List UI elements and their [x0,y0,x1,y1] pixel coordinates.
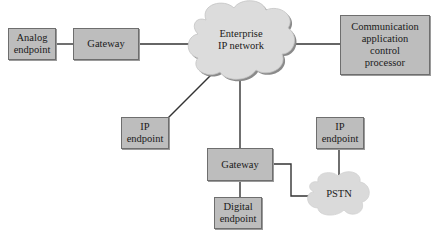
ip-endpoint-right-label-2: endpoint [322,133,359,145]
gateway-top-box: Gateway [73,28,139,60]
enterprise-network-label: Enterprise IP network [205,28,277,52]
pstn-label: PSTN [314,188,364,200]
digital-endpoint-label-2: endpoint [220,213,257,225]
pstn-label-text: PSTN [326,188,352,199]
cacp-label-1: Communication [351,21,419,33]
cacp-label-2: application [351,33,419,45]
enterprise-network-label-2: IP network [205,40,277,52]
digital-endpoint-box: Digital endpoint [214,197,262,229]
ip-endpoint-left-label-1: IP [127,121,164,133]
ip-endpoint-right-box: IP endpoint [316,117,364,149]
analog-endpoint-label-2: endpoint [14,44,51,56]
ip-endpoint-left-box: IP endpoint [121,117,169,149]
cacp-label-4: processor [351,57,419,69]
analog-endpoint-box: Analog endpoint [8,28,56,60]
analog-endpoint-label-1: Analog [14,32,51,44]
cacp-box: Communication application control proces… [340,15,430,75]
edge-cloud-ip-left [168,74,212,118]
ip-endpoint-right-label-1: IP [322,121,359,133]
edge-gateway-pstn [273,164,310,196]
cacp-label-3: control [351,45,419,57]
ip-endpoint-left-label-2: endpoint [127,133,164,145]
gateway-bottom-box: Gateway [207,148,273,181]
digital-endpoint-label-1: Digital [220,201,257,213]
enterprise-network-label-1: Enterprise [205,28,277,40]
gateway-bottom-label: Gateway [221,159,258,171]
gateway-top-label: Gateway [87,38,124,50]
